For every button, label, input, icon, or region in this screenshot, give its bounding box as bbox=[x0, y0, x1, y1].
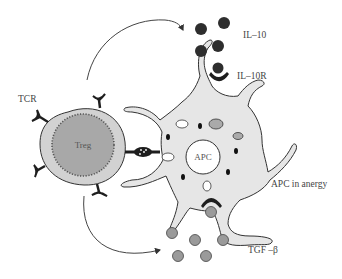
il10-particle bbox=[212, 40, 224, 52]
tgfb-secretion-arrow bbox=[84, 196, 160, 253]
apc-vesicle bbox=[203, 181, 211, 191]
apc-granule bbox=[181, 174, 185, 180]
tgfb-particle bbox=[201, 251, 212, 262]
treg-label: Treg bbox=[75, 140, 92, 150]
tgfb-label: TGF –β bbox=[248, 245, 278, 255]
il10-particle bbox=[218, 17, 230, 29]
il10-secretion-arrow bbox=[87, 20, 183, 80]
tcr-receptor bbox=[93, 94, 105, 108]
tcr-receptor bbox=[34, 165, 45, 177]
apc-anergy-label: APC in anergy bbox=[271, 179, 328, 189]
il10-label: IL–10 bbox=[243, 30, 266, 40]
apc-granule bbox=[226, 169, 230, 175]
tcr-label: TCR bbox=[18, 94, 37, 104]
apc-vesicle bbox=[162, 153, 174, 161]
apc-vesicle-grey bbox=[209, 119, 223, 129]
apc-granule bbox=[198, 123, 202, 129]
il10-particle bbox=[195, 23, 207, 35]
il10-particle-bound bbox=[213, 63, 224, 74]
tcr-receptor bbox=[32, 110, 48, 122]
apc-granule bbox=[166, 134, 170, 140]
apc-granule bbox=[234, 148, 238, 154]
tgfb-particle bbox=[190, 235, 201, 246]
tgfb-particle bbox=[218, 235, 229, 246]
tcr-receptor bbox=[92, 184, 107, 196]
il10r-label: IL–10R bbox=[237, 71, 267, 81]
il10-particle bbox=[195, 45, 207, 57]
tgfb-particle bbox=[173, 251, 184, 262]
diagram-svg: APC Treg TCR IL–10 bbox=[0, 0, 342, 279]
tgfb-particle bbox=[167, 228, 178, 239]
apc-label: APC bbox=[194, 152, 212, 162]
immune-synapse bbox=[125, 147, 160, 157]
diagram-canvas: APC Treg TCR IL–10 bbox=[0, 0, 342, 279]
apc-vesicle bbox=[176, 120, 188, 128]
apc-vesicle-grey bbox=[233, 133, 243, 140]
tgfb-particle-bound bbox=[206, 207, 217, 218]
